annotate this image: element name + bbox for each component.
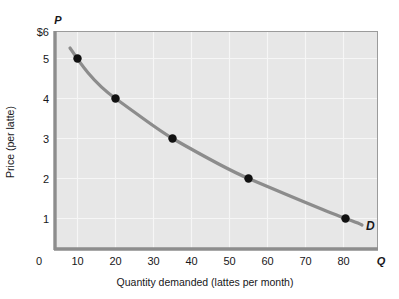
plot-area-background bbox=[56, 32, 378, 250]
curve-label-d: D bbox=[366, 219, 375, 233]
y-tick-label-6: $6 bbox=[37, 26, 49, 38]
y-tick-label-1: 1 bbox=[43, 213, 49, 225]
y-tick-label-2: 2 bbox=[43, 173, 49, 185]
x-tick-label-10: 10 bbox=[71, 255, 83, 267]
x-tick-label-20: 20 bbox=[109, 255, 121, 267]
y-axis-title: Price (per latte) bbox=[4, 106, 16, 178]
data-point bbox=[111, 94, 119, 102]
y-tick-label-4: 4 bbox=[43, 93, 49, 105]
x-tick-label-30: 30 bbox=[147, 255, 159, 267]
x-tick-label-0: 0 bbox=[36, 255, 42, 267]
y-tick-label-3: 3 bbox=[43, 133, 49, 145]
data-point bbox=[168, 134, 176, 142]
x-tick-label-70: 70 bbox=[299, 255, 311, 267]
demand-curve-figure: D P Q $6 5 4 3 2 1 0 10 20 30 40 50 60 7… bbox=[0, 0, 399, 299]
data-point bbox=[341, 214, 349, 222]
chart-canvas: D P Q $6 5 4 3 2 1 0 10 20 30 40 50 60 7… bbox=[0, 0, 399, 299]
x-tick-label-50: 50 bbox=[223, 255, 235, 267]
x-tick-label-40: 40 bbox=[185, 255, 197, 267]
data-point bbox=[73, 54, 81, 62]
data-point bbox=[244, 174, 252, 182]
y-tick-label-5: 5 bbox=[43, 53, 49, 65]
y-axis-symbol: P bbox=[54, 14, 62, 26]
x-axis-symbol: Q bbox=[377, 255, 386, 267]
x-tick-label-80: 80 bbox=[337, 255, 349, 267]
x-tick-label-60: 60 bbox=[261, 255, 273, 267]
x-axis-title: Quantity demanded (lattes per month) bbox=[117, 276, 294, 288]
